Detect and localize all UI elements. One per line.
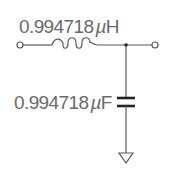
inductor-label: 0.994718µH [19,16,119,37]
input-terminal [17,42,23,48]
inductor-coil-icon [52,38,98,49]
output-terminal [152,42,158,48]
circuit-diagram: 0.994718µH 0.994718µF [0,0,175,170]
capacitor-label: 0.994718µF [14,92,112,113]
ground-icon [119,153,133,163]
